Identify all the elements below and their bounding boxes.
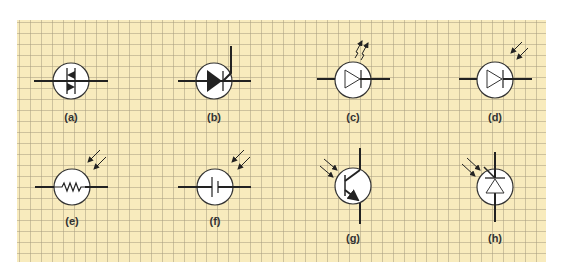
label-e: (e) bbox=[65, 215, 78, 227]
label-a: (a) bbox=[64, 111, 77, 123]
label-f: (f) bbox=[210, 215, 221, 227]
label-h: (h) bbox=[488, 232, 502, 244]
symbol-h-photo-zener-icon bbox=[462, 152, 513, 222]
symbol-e-ldr-icon bbox=[35, 150, 108, 205]
label-c: (c) bbox=[346, 111, 359, 123]
symbol-f-photocell-icon bbox=[178, 150, 251, 205]
symbol-a-diac-icon bbox=[34, 63, 108, 99]
symbol-d-photodiode-icon bbox=[459, 42, 532, 98]
label-g: (g) bbox=[346, 232, 360, 244]
symbol-g-phototransistor-icon bbox=[320, 148, 371, 224]
symbols-diagram bbox=[0, 0, 563, 275]
label-d: (d) bbox=[488, 111, 502, 123]
symbol-c-led-icon bbox=[317, 41, 390, 98]
symbol-b-thyristor-icon bbox=[178, 46, 251, 99]
label-b: (b) bbox=[207, 111, 221, 123]
